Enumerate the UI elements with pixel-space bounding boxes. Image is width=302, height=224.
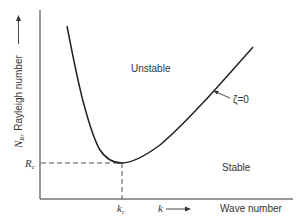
zeta-pointer-line bbox=[216, 92, 230, 98]
y-axis-label-group: NR, Rayleigh number bbox=[12, 15, 26, 149]
zeta-zero-label: ζ=0 bbox=[233, 94, 249, 106]
x-axis-arrow-icon bbox=[185, 207, 191, 212]
x-axis-label: Wave number bbox=[220, 203, 283, 214]
y-axis-arrow-icon bbox=[16, 15, 21, 21]
rayleigh-stability-diagram: Unstable Stable ζ=0 Rc kc --> k Wave num… bbox=[0, 0, 302, 224]
critical-wavenumber-label: kc bbox=[117, 202, 126, 216]
zeta-pointer-arrowhead-icon bbox=[213, 91, 219, 95]
stable-region-label: Stable bbox=[222, 162, 251, 173]
neutral-stability-curve bbox=[67, 26, 253, 163]
critical-rayleigh-label: Rc bbox=[24, 157, 36, 171]
x-axis-symbol: k bbox=[158, 202, 164, 214]
unstable-region-label: Unstable bbox=[131, 63, 171, 74]
y-axis-label: NR, Rayleigh number bbox=[12, 55, 26, 149]
